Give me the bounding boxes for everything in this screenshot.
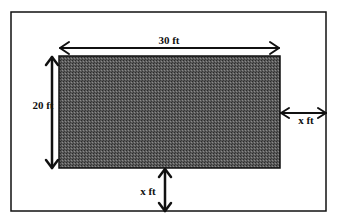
- bottom-gap-label: x ft: [140, 185, 156, 197]
- diagram-canvas: 30 ft 20 ft x ft x ft: [0, 0, 345, 224]
- bottom-gap-arrow: [159, 169, 171, 211]
- inner-shaded-rectangle: [59, 56, 280, 168]
- right-gap-label: x ft: [298, 114, 314, 126]
- left-height-label: 20 ft: [32, 99, 53, 111]
- left-height-arrow: [46, 57, 58, 168]
- top-width-label: 30 ft: [158, 34, 179, 46]
